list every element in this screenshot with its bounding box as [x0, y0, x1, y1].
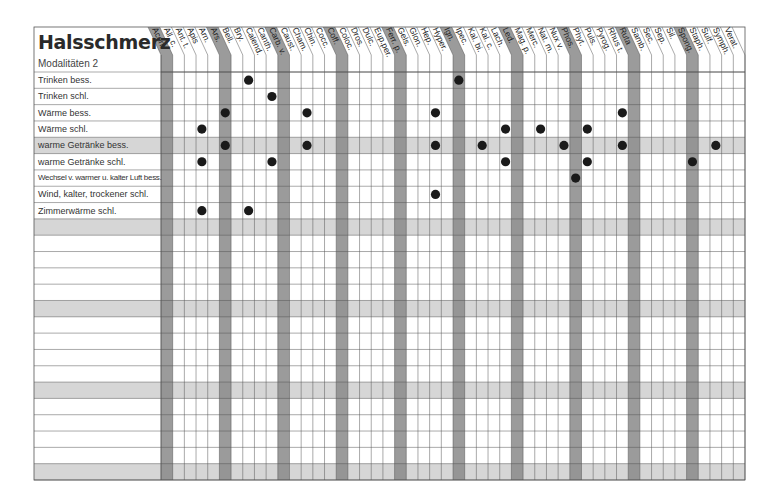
highlight-column-band — [674, 27, 699, 480]
mark-dot — [431, 108, 440, 117]
page-title: Halsschmerz — [38, 31, 170, 53]
mark-dot — [711, 141, 720, 150]
row-label: Wechsel v. warmer u. kalter Luft bess. — [38, 173, 161, 182]
mark-dot — [431, 190, 440, 199]
mark-dot — [571, 173, 580, 182]
mark-dot — [244, 206, 253, 215]
mark-dot — [501, 157, 510, 166]
highlight-column-band — [382, 27, 407, 480]
mark-dot — [244, 76, 253, 85]
highlight-column-band — [557, 27, 582, 480]
mark-dot — [559, 141, 568, 150]
row-label: Trinken schl. — [38, 91, 89, 101]
row-label: Trinken bess. — [38, 75, 92, 85]
mark-dot — [267, 157, 276, 166]
mark-dot — [302, 108, 311, 117]
highlight-column-band — [440, 27, 465, 480]
mark-dot — [583, 125, 592, 134]
mark-dot — [618, 141, 627, 150]
highlight-column-band — [206, 27, 231, 480]
row-label: Zimmerwärme schl. — [38, 206, 117, 216]
mark-dot — [197, 157, 206, 166]
mark-dot — [454, 76, 463, 85]
mark-dot — [478, 141, 487, 150]
mark-dot — [501, 125, 510, 134]
row-label: Wärme schl. — [38, 124, 88, 134]
mark-dot — [197, 125, 206, 134]
grid: Acon.All. c.Ant. t.ApisArn.Ars.Bell.Bry.… — [0, 0, 774, 502]
mark-dot — [536, 125, 545, 134]
mark-dot — [197, 206, 206, 215]
mark-dot — [618, 108, 627, 117]
mark-dot — [221, 108, 230, 117]
row-label: warme Getränke bess. — [38, 140, 129, 150]
highlight-column-band — [615, 27, 640, 480]
page-subtitle: Modalitäten 2 — [38, 58, 98, 69]
row-label: Wind, kalter, trockener schl. — [38, 189, 149, 199]
mark-dot — [688, 157, 697, 166]
mark-dot — [583, 157, 592, 166]
row-label: Wärme bess. — [38, 108, 91, 118]
row-label: warme Getränke schl. — [38, 157, 126, 167]
remedy-modality-chart: Acon.All. c.Ant. t.ApisArn.Ars.Bell.Bry.… — [0, 0, 774, 502]
highlight-column-band — [498, 27, 523, 480]
highlight-column-band — [148, 27, 173, 480]
mark-dot — [221, 141, 230, 150]
mark-dot — [267, 92, 276, 101]
mark-dot — [302, 141, 311, 150]
highlight-column-band — [323, 27, 348, 480]
mark-dot — [431, 141, 440, 150]
